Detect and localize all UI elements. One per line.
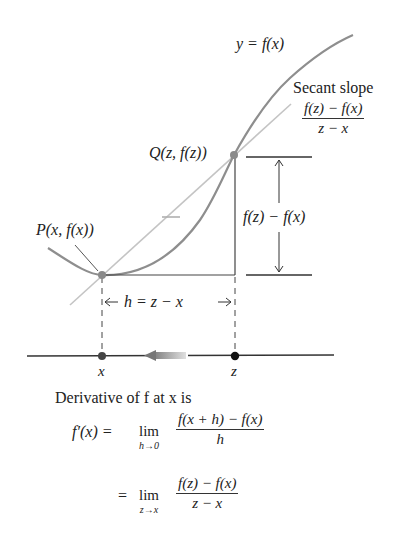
secant-numerator: f(z) − f(x)	[302, 101, 364, 119]
secant-denominator: z − x	[318, 119, 348, 136]
caption-intro: Derivative of f at x is	[55, 390, 191, 406]
quotient-numerator: f(x + h) − f(x)	[176, 412, 264, 430]
lim-subscript: z→x	[140, 505, 158, 515]
lim-word: lim	[139, 488, 159, 503]
curve-label: y = f(x)	[236, 36, 284, 52]
difference-quotient-z: f(z) − f(x) z − x	[176, 476, 238, 511]
secant-slope-fraction: f(z) − f(x) z − x	[302, 101, 364, 136]
secant-slope-label: Secant slope	[293, 80, 373, 96]
rise-label: f(z) − f(x)	[242, 209, 306, 225]
point-q	[230, 151, 238, 159]
axis-point-x	[98, 352, 106, 360]
lim-subscript: h→0	[139, 441, 159, 451]
axis-point-z	[231, 352, 239, 360]
limit-h: lim h→0	[139, 424, 159, 451]
point-p	[98, 271, 106, 279]
axis-label-z: z	[231, 364, 237, 379]
point-p-label: P(x, f(x))	[36, 222, 94, 238]
lim-word: lim	[139, 424, 159, 439]
limit-z: lim z→x	[139, 488, 159, 515]
equals-sign: =	[118, 488, 127, 504]
approach-arrow	[144, 350, 186, 361]
quotient-numerator: f(z) − f(x)	[176, 476, 238, 494]
derivative-lhs: f′(x) =	[72, 424, 113, 440]
axis-label-x: x	[98, 364, 105, 379]
difference-quotient-h: f(x + h) − f(x) h	[176, 412, 264, 447]
run-label: h = z − x	[124, 294, 183, 310]
quotient-denominator: z − x	[192, 494, 222, 511]
quotient-denominator: h	[216, 430, 224, 447]
point-q-label: Q(z, f(z))	[149, 145, 207, 161]
